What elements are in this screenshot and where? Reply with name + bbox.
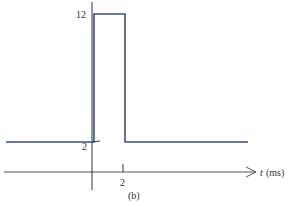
figure-caption: (b) [128,190,140,202]
pulse-signal [6,14,248,142]
y-label-2: 2 [82,141,87,152]
pulse-chart: 12 2 2 t (ms) (b) [0,0,288,207]
x-axis-units: (ms) [266,167,284,179]
y-label-12: 12 [76,9,86,20]
x-tick-label-2: 2 [120,177,125,188]
x-axis-variable: t [260,167,263,178]
